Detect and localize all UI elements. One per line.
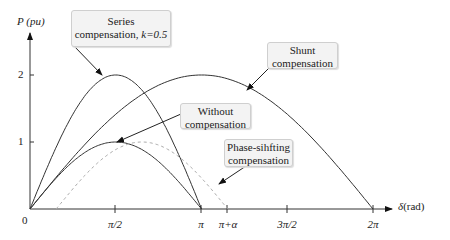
y-tick-2: 2 [18,68,24,80]
y-axis-label: P (pu) [17,15,45,27]
shunt-label-line1: Shunt [270,44,335,57]
y-tick-1: 1 [18,135,24,147]
x-tick-pi-alpha: π+α [219,218,238,230]
without-compensation-curve [30,142,202,209]
origin-label: 0 [22,214,28,226]
phase-arrow [219,166,246,184]
x-label-unit: (rad) [403,200,424,212]
phase-label-line2: compensation [227,154,290,167]
x-tick-pi2: π/2 [108,218,122,230]
without-compensation-label: Without compensation [180,103,251,129]
series-label-line2: compensation, k=0.5 [74,28,168,41]
x-tick-3pi2: 3π/2 [277,218,297,230]
x-tick-2pi: 2π [367,218,378,230]
shunt-arrow [247,68,269,90]
shunt-compensation-label: Shunt compensation [267,42,338,69]
phase-shifting-compensation-curve [56,142,227,209]
series-label-k: k=0.5 [141,28,167,40]
without-label-line2: compensation [183,118,248,131]
y-label-symbol: P [17,15,24,27]
shunt-compensation-curve [30,75,373,209]
series-label-line1: Series [74,15,168,28]
phase-shifting-compensation-label: Phase-sihfting compensation [224,139,293,167]
x-tick-pi: π [198,218,204,230]
phase-label-line1: Phase-sihfting [227,141,290,154]
x-axis-label: δ(rad) [398,200,425,212]
series-compensation-label: Series compensation, k=0.5 [71,10,171,47]
series-label-text: compensation, [75,28,142,40]
shunt-label-line2: compensation [270,57,335,70]
y-label-unit: (pu) [26,15,44,27]
series-arrow [74,46,102,75]
without-label-line1: Without [183,105,248,118]
